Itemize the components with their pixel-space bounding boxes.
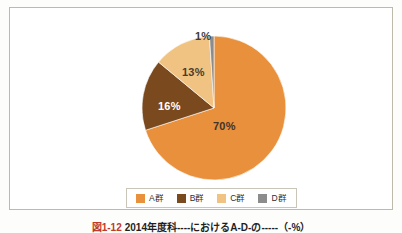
slice-label-d: 1%: [195, 30, 211, 42]
legend-item-a[interactable]: A群: [136, 194, 164, 203]
slice-label-c: 13%: [182, 66, 205, 78]
legend-label: D群: [271, 194, 286, 203]
legend-swatch-icon: [258, 194, 267, 203]
chart-frame: 70% 16% 13% 1% A群B群C群D群: [9, 7, 393, 210]
legend-label: A群: [149, 194, 164, 203]
chart-legend: A群B群C群D群: [126, 188, 297, 208]
slice-label-a: 70%: [213, 120, 236, 132]
figure-caption: 図1-122014年度科----におけるA-D-の-----（-%）: [0, 219, 402, 233]
legend-swatch-icon: [136, 194, 145, 203]
figure-caption-text: 2014年度科----におけるA-D-の-----（-%）: [125, 222, 311, 233]
legend-item-b[interactable]: B群: [177, 194, 205, 203]
legend-item-d[interactable]: D群: [258, 194, 286, 203]
legend-label: B群: [190, 194, 205, 203]
legend-item-c[interactable]: C群: [217, 194, 245, 203]
page-root: 70% 16% 13% 1% A群B群C群D群 図1-122014年度科----…: [0, 0, 402, 233]
legend-swatch-icon: [177, 194, 186, 203]
figure-number: 図1-12: [92, 222, 122, 233]
slice-label-b: 16%: [158, 100, 181, 112]
legend-label: C群: [230, 194, 245, 203]
legend-swatch-icon: [217, 194, 226, 203]
